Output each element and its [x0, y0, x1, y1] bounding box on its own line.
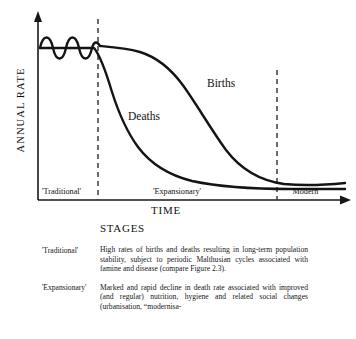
stage-axis-label-traditional: 'Traditional' — [42, 187, 82, 196]
demographic-transition-figure: Births Deaths 'Traditional' 'Expansionar… — [0, 0, 356, 215]
stage-axis-label-expansionary: 'Expansionary' — [153, 187, 201, 196]
x-axis-arrowhead — [340, 196, 351, 205]
stage-description-traditional-text: High rates of births and deaths resultin… — [100, 245, 308, 274]
y-axis-title: ANNUAL RATE — [15, 68, 26, 153]
stage-term-expansionary: 'Expansionary' — [42, 283, 100, 293]
deaths-curve-label: Deaths — [128, 110, 160, 122]
transition-model-chart: Births Deaths 'Traditional' 'Expansionar… — [0, 0, 356, 215]
births-curve-label: Births — [207, 77, 236, 89]
stage-description-traditional: High rates of births and deaths resultin… — [100, 245, 308, 274]
stage-entry-traditional: 'Traditional' High rates of births and d… — [0, 245, 356, 274]
y-axis-arrowhead — [34, 11, 42, 22]
stages-section: STAGES 'Traditional' High rates of birth… — [0, 222, 356, 321]
deaths-curve — [40, 48, 345, 189]
x-axis-title: TIME — [151, 204, 181, 215]
stage-description-expansionary: Marked and rapid decline in death rate a… — [100, 283, 308, 312]
stages-heading: STAGES — [100, 222, 356, 234]
stage-description-expansionary-text: Marked and rapid decline in death rate a… — [100, 283, 308, 312]
births-curve — [40, 38, 345, 186]
stage-entry-expansionary: 'Expansionary' Marked and rapid decline … — [0, 283, 356, 312]
stage-term-traditional: 'Traditional' — [42, 245, 100, 255]
stage-axis-label-modern: 'Modern' — [291, 187, 320, 196]
